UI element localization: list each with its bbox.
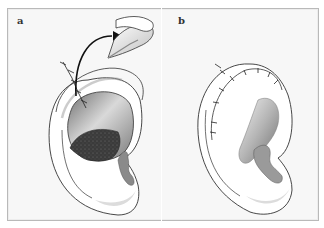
ear-illustrations	[0, 0, 324, 228]
panel-b-ear	[198, 64, 292, 214]
panel-a-ear	[49, 17, 153, 216]
